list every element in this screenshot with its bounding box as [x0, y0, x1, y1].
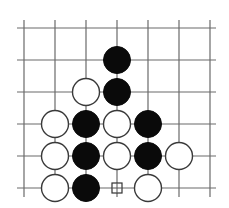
- go-board: [0, 0, 229, 208]
- black-stone: [73, 143, 100, 170]
- white-stone: [73, 79, 100, 106]
- white-stone: [166, 143, 193, 170]
- white-stone: [104, 111, 131, 138]
- black-stone: [73, 175, 100, 202]
- square-marker: [112, 183, 122, 193]
- white-stone: [42, 143, 69, 170]
- white-stone: [42, 175, 69, 202]
- black-stone: [104, 79, 131, 106]
- white-stone: [135, 175, 162, 202]
- white-stone: [42, 111, 69, 138]
- black-stone: [73, 111, 100, 138]
- black-stone: [135, 111, 162, 138]
- white-stone: [104, 143, 131, 170]
- black-stone: [104, 47, 131, 74]
- black-stone: [135, 143, 162, 170]
- markers-layer: [112, 183, 122, 193]
